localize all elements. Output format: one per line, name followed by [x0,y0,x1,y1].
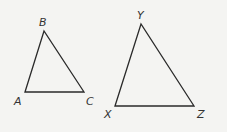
triangle-xyz [115,24,194,106]
vertex-label-x: X [103,108,112,121]
triangle-abc [25,31,84,92]
similar-triangles-figure: A B C X Y Z [0,0,227,132]
vertex-label-c: C [86,95,94,108]
vertex-label-z: Z [196,108,205,121]
vertex-label-a: A [13,95,22,108]
vertex-label-y: Y [137,9,145,22]
vertex-label-b: B [39,16,47,29]
